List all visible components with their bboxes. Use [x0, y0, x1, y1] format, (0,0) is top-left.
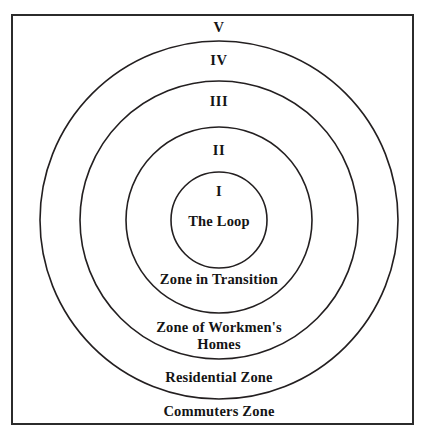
zone-numeral-ii: II: [119, 142, 319, 158]
concentric-zone-diagram: V IV III II I The Loop Zone in Transitio…: [0, 0, 430, 438]
zone-label-residential-zone: Residential Zone: [109, 369, 329, 385]
zone-numeral-i: I: [119, 183, 319, 199]
zone-numeral-iii: III: [119, 93, 319, 109]
zone-numeral-v: V: [119, 19, 319, 35]
zone-label-zone-of-workmens-homes: Zone of Workmen's Homes: [129, 319, 309, 353]
zone-label-zone-in-transition: Zone in Transition: [104, 271, 334, 287]
zone-label-the-loop: The Loop: [139, 213, 299, 229]
zone-numeral-iv: IV: [119, 52, 319, 68]
zone-label-commuters-zone: Commuters Zone: [109, 403, 329, 419]
